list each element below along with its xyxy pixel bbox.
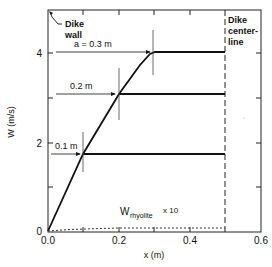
x-tick-label: 0.6 [254, 235, 268, 246]
x-axis-label: x (m) [144, 250, 165, 260]
curve-rhyolite [48, 228, 225, 231]
y-ticks [48, 53, 261, 187]
x-tick-label: 0.4 [183, 235, 197, 246]
chart: 0.0 0.2 0.4 0.6 0 2 4 x (m) W (m/s) a = … [0, 0, 272, 267]
y-tick-label: 4 [36, 48, 42, 59]
dike-wall-label: Dike [65, 19, 84, 29]
y-tick-label: 2 [36, 138, 42, 149]
centerline-label: Dike [228, 15, 247, 25]
centerline-label: line [228, 37, 244, 47]
label-a-0.2: 0.2 m [70, 81, 93, 91]
y-tick-label: 0 [36, 226, 42, 237]
label-a-0.3: a = 0.3 m [74, 39, 112, 49]
label-a-0.1: 0.1 m [55, 141, 78, 151]
rhyolite-scale: x 10 [163, 206, 179, 215]
dike-wall-label: wall [64, 30, 82, 40]
x-tick-label: 0.0 [41, 235, 55, 246]
x-tick-label: 0.2 [112, 235, 126, 246]
y-axis-label: W (m/s) [6, 106, 16, 138]
rhyolite-subscript: rhyolite [130, 212, 153, 220]
rhyolite-label: W [120, 206, 130, 217]
centerline-label: center- [228, 26, 258, 36]
